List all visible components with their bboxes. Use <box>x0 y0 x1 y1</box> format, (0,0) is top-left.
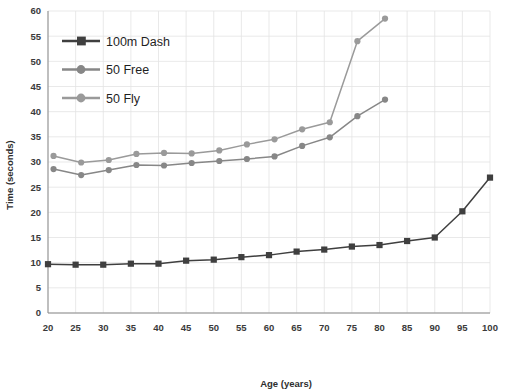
data-point-marker <box>73 262 79 268</box>
data-point-marker <box>376 242 382 248</box>
data-point-marker <box>294 248 300 254</box>
x-tick-label: 90 <box>429 322 440 333</box>
data-point-marker <box>266 252 272 258</box>
y-tick-label: 25 <box>30 182 41 193</box>
data-point-marker <box>128 261 134 267</box>
y-tick-label: 55 <box>30 31 41 42</box>
data-point-marker <box>432 234 438 240</box>
legend-label: 100m Dash <box>106 35 170 49</box>
x-tick-label: 45 <box>181 322 192 333</box>
data-point-marker <box>50 166 56 172</box>
data-point-marker <box>404 238 410 244</box>
data-point-marker <box>327 134 333 140</box>
data-point-marker <box>244 141 250 147</box>
legend-marker <box>77 37 86 46</box>
data-point-marker <box>238 254 244 260</box>
data-point-marker <box>133 151 139 157</box>
data-point-marker <box>161 162 167 168</box>
x-tick-label: 60 <box>264 322 275 333</box>
data-point-marker <box>78 172 84 178</box>
x-tick-label: 30 <box>98 322 109 333</box>
data-point-marker <box>78 159 84 165</box>
data-point-marker <box>327 119 333 125</box>
data-point-marker <box>189 150 195 156</box>
data-point-marker <box>349 243 355 249</box>
data-point-marker <box>321 246 327 252</box>
data-point-marker <box>299 143 305 149</box>
data-point-marker <box>133 162 139 168</box>
x-tick-label: 40 <box>153 322 164 333</box>
x-tick-label: 65 <box>291 322 302 333</box>
data-point-marker <box>216 147 222 153</box>
data-point-marker <box>50 153 56 159</box>
data-point-marker <box>244 156 250 162</box>
y-tick-label: 5 <box>36 282 42 293</box>
data-point-marker <box>354 38 360 44</box>
y-axis-title: Time (seconds) <box>4 140 15 210</box>
x-axis-title: Age (years) <box>260 378 312 389</box>
line-chart: 051015202530354045505560 202530354045505… <box>0 0 512 392</box>
data-point-marker <box>100 262 106 268</box>
data-point-marker <box>382 15 388 21</box>
chart-background <box>0 0 512 392</box>
x-tick-label: 75 <box>347 322 358 333</box>
x-tick-label: 70 <box>319 322 330 333</box>
y-tick-label: 20 <box>30 207 41 218</box>
data-point-marker <box>487 175 493 181</box>
data-point-marker <box>216 158 222 164</box>
y-tick-label: 10 <box>30 257 41 268</box>
x-tick-label: 80 <box>374 322 385 333</box>
y-tick-label: 50 <box>30 56 41 67</box>
data-point-marker <box>459 208 465 214</box>
data-point-marker <box>299 126 305 132</box>
x-tick-label: 50 <box>208 322 219 333</box>
legend-label: 50 Free <box>106 63 149 77</box>
x-tick-label: 35 <box>126 322 137 333</box>
y-tick-label: 45 <box>30 81 41 92</box>
y-tick-label: 35 <box>30 131 41 142</box>
data-point-marker <box>155 261 161 267</box>
y-tick-label: 15 <box>30 232 41 243</box>
x-tick-label: 100 <box>482 322 498 333</box>
data-point-marker <box>45 261 51 267</box>
data-point-marker <box>106 157 112 163</box>
data-point-marker <box>161 150 167 156</box>
legend-marker <box>77 94 86 103</box>
x-tick-label: 20 <box>43 322 54 333</box>
y-tick-label: 0 <box>36 307 41 318</box>
legend-label: 50 Fly <box>106 92 141 106</box>
data-point-marker <box>106 167 112 173</box>
data-point-marker <box>354 113 360 119</box>
data-point-marker <box>189 160 195 166</box>
y-tick-label: 40 <box>30 106 41 117</box>
y-tick-label: 30 <box>30 156 41 167</box>
x-tick-label: 95 <box>457 322 468 333</box>
x-tick-label: 25 <box>70 322 81 333</box>
data-point-marker <box>271 153 277 159</box>
y-tick-label: 60 <box>30 5 41 16</box>
x-tick-label: 85 <box>402 322 413 333</box>
data-point-marker <box>382 96 388 102</box>
legend-marker <box>77 65 86 74</box>
data-point-marker <box>271 136 277 142</box>
data-point-marker <box>211 257 217 263</box>
data-point-marker <box>183 258 189 264</box>
chart-canvas: 051015202530354045505560 202530354045505… <box>0 0 512 392</box>
x-tick-label: 55 <box>236 322 247 333</box>
